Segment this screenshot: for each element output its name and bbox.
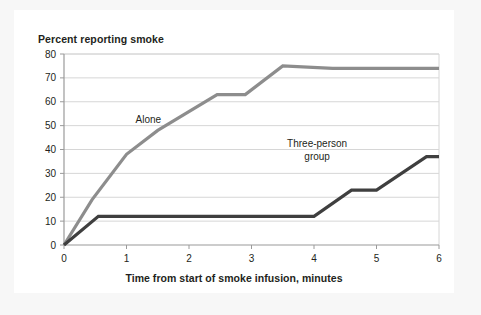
plot-area: 01020304050607080 0123456 AloneThree-per…	[14, 10, 454, 293]
y-axis-tick-label: 10	[45, 216, 57, 227]
chart-card: Percent reporting smoke 0102030405060708…	[14, 10, 454, 293]
series-annotations-group: AloneThree-persongroup	[136, 114, 348, 161]
x-axis-tick-label: 0	[61, 253, 67, 264]
x-axis-tick-label: 2	[186, 253, 192, 264]
series-label-alone: Alone	[136, 114, 162, 125]
x-axis-tick-label: 3	[249, 253, 255, 264]
y-axis-tick-label: 80	[45, 49, 57, 60]
data-series-group	[64, 66, 439, 245]
x-axis-tick-label: 5	[374, 253, 380, 264]
y-axis-tick-label: 40	[45, 144, 57, 155]
y-axis-tick-label: 50	[45, 120, 57, 131]
gridlines-group	[64, 54, 439, 221]
y-axis-tick-label: 20	[45, 192, 57, 203]
series-label-line-2: group	[304, 151, 330, 162]
series-label-line-1: Three-person	[287, 138, 347, 149]
line-chart-svg: 01020304050607080 0123456 AloneThree-per…	[14, 10, 454, 293]
series-line-2	[64, 157, 439, 245]
x-axis-ticks-group: 0123456	[61, 245, 442, 264]
x-axis-tick-label: 1	[124, 253, 130, 264]
y-axis-tick-label: 60	[45, 96, 57, 107]
y-axis-tick-label: 70	[45, 72, 57, 83]
x-axis-title: Time from start of smoke infusion, minut…	[14, 272, 454, 284]
x-axis-tick-label: 4	[311, 253, 317, 264]
figure-canvas: Percent reporting smoke 0102030405060708…	[0, 0, 481, 315]
x-axis-tick-label: 6	[436, 253, 442, 264]
y-axis-tick-label: 30	[45, 168, 57, 179]
y-axis-tick-label: 0	[50, 240, 56, 251]
series-line-1	[64, 66, 439, 245]
y-axis-ticks-group: 01020304050607080	[45, 49, 64, 251]
